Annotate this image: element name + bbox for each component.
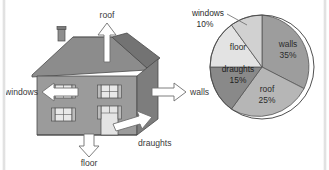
pie-chart: walls 35% roof 25% draughts 15% floor wi… [191,8,314,119]
chimney-icon [57,27,66,42]
pie-label-windows: windows [191,8,224,18]
house-label-windows: windows [4,87,38,97]
pie-value-roof: 25% [259,95,276,105]
house-label-walls: walls [189,87,209,97]
pie-label-roof: roof [260,84,275,94]
pie-label-walls: walls [278,39,298,49]
house-diagram: roof windows walls draughts floor [4,10,209,168]
house-label-floor: floor [81,158,98,168]
roof-shape [32,33,160,77]
pie-label-draughts: draughts [222,64,255,74]
house-label-draughts: draughts [138,138,171,148]
figure-canvas: roof windows walls draughts floor [0,0,329,170]
pie-label-floor: floor [230,42,247,52]
house-window [52,108,76,121]
pie-value-walls: 35% [280,50,297,60]
pie-value-windows: 10% [197,19,214,29]
pie-value-draughts: 15% [230,75,247,85]
figure-heat-loss: roof windows walls draughts floor [0,0,329,170]
floor-arrow-icon [79,134,99,157]
house-window [98,85,122,98]
house-label-roof: roof [100,10,115,20]
